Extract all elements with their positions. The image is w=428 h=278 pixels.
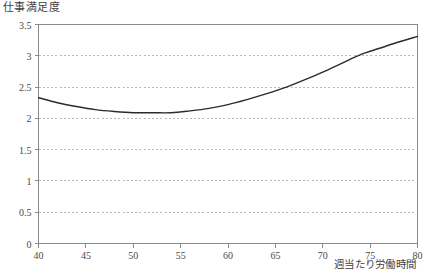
chart-container: 仕事満足度 00.511.522.533.5 40455055606570758… (0, 0, 428, 278)
x-tick-label: 40 (34, 250, 44, 261)
y-tick-label: 0 (0, 238, 32, 249)
y-tick-label: 1.5 (0, 144, 32, 155)
plot-frame (39, 25, 418, 244)
x-tick-label: 50 (128, 250, 138, 261)
y-tick-label: 0.5 (0, 207, 32, 218)
plot-area-svg (0, 0, 428, 278)
tick-marks-group (35, 25, 418, 248)
y-tick-label: 3.5 (0, 19, 32, 30)
y-tick-label: 3 (0, 50, 32, 61)
data-curve (39, 36, 418, 112)
gridlines-group (39, 56, 418, 212)
x-tick-label: 60 (223, 250, 233, 261)
x-tick-label: 65 (270, 250, 280, 261)
x-axis-title: 週当たり労働時間 (334, 258, 416, 271)
x-tick-label: 70 (318, 250, 328, 261)
x-tick-label: 55 (176, 250, 186, 261)
x-tick-label: 45 (81, 250, 91, 261)
y-tick-label: 2.5 (0, 82, 32, 93)
data-curves-group (39, 36, 418, 112)
y-tick-label: 2 (0, 113, 32, 124)
plot-frame-rect (39, 25, 418, 244)
y-tick-label: 1 (0, 175, 32, 186)
